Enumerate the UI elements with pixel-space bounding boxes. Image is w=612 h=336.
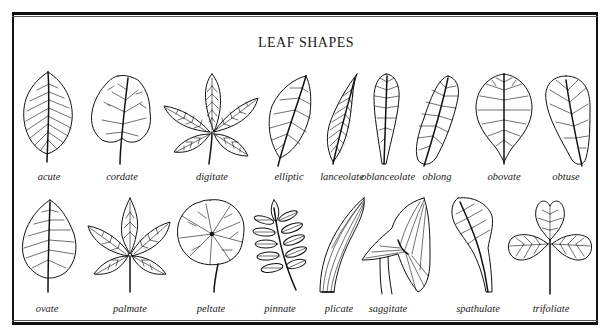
label-cordate: cordate bbox=[106, 171, 138, 182]
leaf-spathulate-illustration bbox=[450, 196, 500, 294]
label-obtuse: obtuse bbox=[552, 171, 579, 182]
leaf-pinnate-illustration bbox=[252, 198, 308, 292]
label-plicate: plicate bbox=[325, 303, 354, 314]
label-pinnate: pinnate bbox=[264, 303, 296, 314]
label-elliptic: elliptic bbox=[274, 171, 303, 182]
label-oblong: oblong bbox=[422, 171, 451, 182]
leaf-acute-illustration bbox=[20, 70, 76, 162]
leaf-palmate-illustration bbox=[86, 196, 172, 292]
leaf-obtuse-illustration bbox=[544, 74, 592, 166]
label-ovate: ovate bbox=[36, 303, 59, 314]
label-spathulate: spathulate bbox=[456, 303, 500, 314]
leaf-ovate-illustration bbox=[18, 198, 80, 292]
label-acute: acute bbox=[38, 171, 61, 182]
label-peltate: peltate bbox=[197, 303, 226, 314]
leaf-cordate-illustration bbox=[88, 72, 156, 164]
label-obovate: obovate bbox=[487, 171, 520, 182]
top-border-rule-inner bbox=[12, 16, 598, 17]
leaf-obovate-illustration bbox=[474, 72, 534, 164]
label-lanceolate: lanceolate bbox=[320, 171, 364, 182]
leaf-lanceolate-illustration bbox=[325, 74, 359, 166]
label-palmate: palmate bbox=[113, 303, 147, 314]
bottom-border-rule-inner bbox=[12, 320, 598, 321]
leaf-trifoliate-illustration bbox=[506, 196, 594, 294]
leaf-oblanceolate-illustration bbox=[372, 72, 402, 166]
leaf-digitate-illustration bbox=[162, 72, 262, 164]
label-saggitate: saggitate bbox=[369, 303, 408, 314]
leaf-oblong-illustration bbox=[414, 74, 460, 166]
leaf-elliptic-illustration bbox=[266, 74, 312, 166]
diagram-title: LEAF SHAPES bbox=[0, 35, 612, 51]
label-digitate: digitate bbox=[196, 171, 228, 182]
leaf-peltate-illustration bbox=[176, 198, 246, 292]
label-oblanceolate: oblanceolate bbox=[361, 171, 415, 182]
label-trifoliate: trifoliate bbox=[533, 303, 570, 314]
bottom-border-rule bbox=[12, 322, 598, 325]
leaf-saggitate-illustration bbox=[360, 196, 432, 294]
top-border-rule bbox=[12, 12, 598, 15]
